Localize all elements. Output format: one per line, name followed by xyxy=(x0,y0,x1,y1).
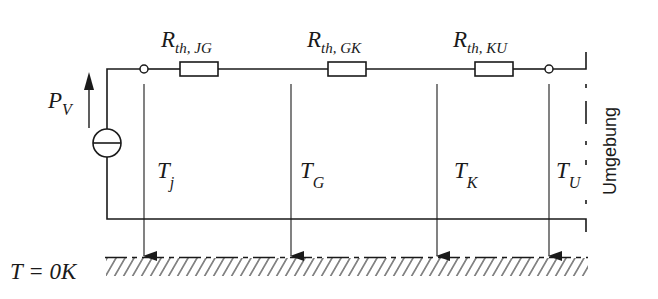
resistor-gk xyxy=(328,62,366,76)
resistor-ku xyxy=(475,62,513,76)
temperature-label-j: Tj xyxy=(157,158,175,192)
terminal-node-junction xyxy=(140,65,148,73)
reference-temperature-label: T = 0K xyxy=(10,259,78,284)
bottom-wire xyxy=(107,157,586,232)
top-wire xyxy=(107,69,140,129)
resistor-label-gk: Rth, GK xyxy=(306,27,362,56)
terminal-node-ambient xyxy=(545,65,553,73)
temperature-label-g: TG xyxy=(300,158,325,191)
resistor-label-jg: Rth, JG xyxy=(160,27,212,56)
temperature-label-u: TU xyxy=(556,158,582,191)
thermal-circuit-diagram: Rth, JG Rth, GK Rth, KU PV Tj TG TK TU T… xyxy=(0,0,658,299)
power-arrow-icon xyxy=(84,72,94,128)
ground-reference-icon xyxy=(105,258,588,277)
power-label: PV xyxy=(47,88,74,118)
temperature-label-k: TK xyxy=(454,158,479,191)
circuit-wires xyxy=(107,52,586,232)
environment-label: Umgebung xyxy=(600,107,620,195)
current-source-icon xyxy=(93,129,121,157)
resistor-label-ku: Rth, KU xyxy=(452,27,508,56)
resistor-jg xyxy=(180,62,218,76)
top-wire-seg-5 xyxy=(553,52,586,69)
